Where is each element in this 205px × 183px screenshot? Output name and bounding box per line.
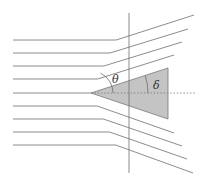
downstream-streamline bbox=[116, 145, 193, 173]
wedge bbox=[91, 68, 168, 119]
downstream-streamline bbox=[103, 119, 182, 146]
oblique-shock-diagram: θ δ bbox=[0, 0, 205, 183]
downstream-streamline bbox=[110, 29, 188, 53]
downstream-streamline bbox=[116, 15, 194, 40]
downstream-streamline bbox=[110, 132, 187, 159]
delta-label: δ bbox=[153, 79, 160, 92]
downstream-streamline bbox=[104, 42, 182, 66]
theta-label: θ bbox=[112, 73, 119, 86]
